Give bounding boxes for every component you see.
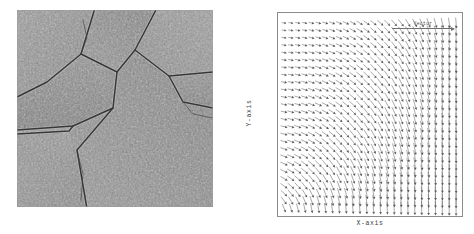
- crack-texture-panel: [17, 10, 213, 207]
- quiver-arrows: [278, 13, 462, 216]
- quiver-plot-frame: Vector: [277, 12, 463, 217]
- crack-texture-image: [17, 10, 213, 207]
- y-axis-label-wrap: Y-axis: [242, 88, 256, 138]
- x-axis-label: X-axis: [277, 220, 463, 227]
- vector-field-panel: Y-axis Vector X-axis: [240, 6, 474, 234]
- y-axis-label: Y-axis: [246, 99, 253, 126]
- figure-root: Y-axis Vector X-axis: [0, 0, 474, 234]
